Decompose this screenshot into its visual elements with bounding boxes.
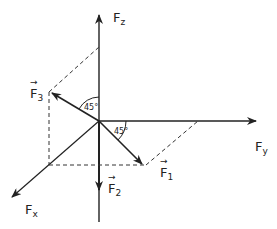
fz-label: Fz [113,11,125,27]
x-axis [12,121,99,197]
angle-label-f1: 45° [114,127,128,136]
diagram-lines [0,0,277,229]
construction-lines [49,47,198,165]
f1-label: F1 [160,166,173,182]
angle-label-f3: 45° [84,103,98,112]
f3-label: F3 [30,87,43,103]
force-diagram: Fz Fy Fx F3 F1 F2 45° 45° [0,0,277,229]
f2-label: F2 [108,182,121,198]
fy-label: Fy [255,140,268,156]
fx-label: Fx [25,203,38,219]
